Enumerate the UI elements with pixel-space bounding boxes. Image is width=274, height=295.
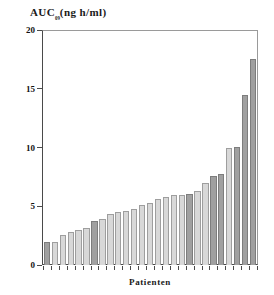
x-axis-tick-mark [43, 266, 44, 270]
bar [44, 242, 50, 265]
bar [139, 205, 145, 265]
x-axis-tick-mark [241, 266, 242, 270]
y-axis-tick-mark [37, 265, 42, 266]
x-axis-tick-mark [138, 266, 139, 270]
bar [115, 212, 121, 265]
y-axis-tick-mark [37, 147, 42, 148]
y-axis-tick-label: 5 [31, 200, 36, 212]
bar-chart: AUC₀₉(ng h/ml) 05101520 Patienten [0, 0, 274, 295]
bar [186, 194, 192, 265]
y-axis-tick-label: 0 [31, 259, 36, 271]
x-axis-tick-mark [170, 266, 171, 270]
x-axis-tick-mark [217, 266, 218, 270]
x-axis-tick-mark [186, 266, 187, 270]
x-axis-label: Patienten [42, 277, 258, 287]
bar [147, 203, 153, 265]
bar [210, 176, 216, 265]
y-axis-tick-mark [37, 206, 42, 207]
x-axis-tick-mark [154, 266, 155, 270]
bar [163, 197, 169, 265]
bar [155, 199, 161, 265]
bar [91, 221, 97, 265]
bar [107, 214, 113, 265]
chart-title-unit: (ng h/ml) [60, 6, 107, 18]
y-axis: 05101520 [0, 24, 42, 271]
x-axis-tick-mark [178, 266, 179, 270]
bar [123, 211, 129, 265]
bar [179, 195, 185, 265]
x-axis-tick-mark [130, 266, 131, 270]
bar [234, 147, 240, 265]
bar [52, 242, 58, 265]
bar [250, 59, 256, 265]
x-axis-tick-mark [194, 266, 195, 270]
bar [83, 228, 89, 265]
y-axis-tick-label: 20 [26, 24, 35, 36]
x-axis-tick-mark [122, 266, 123, 270]
bar [68, 232, 74, 265]
bar [218, 174, 224, 265]
x-axis-tick-mark [162, 266, 163, 270]
x-axis-tick-mark [98, 266, 99, 270]
bar [131, 209, 137, 265]
bar [226, 148, 232, 265]
x-axis-tick-mark [91, 266, 92, 270]
x-axis-tick-mark [106, 266, 107, 270]
x-axis-tick-mark [225, 266, 226, 270]
x-axis-tick-mark [75, 266, 76, 270]
x-axis-tick-mark [67, 266, 68, 270]
bars-container [43, 31, 257, 265]
bar [202, 183, 208, 265]
x-axis-tick-mark [83, 266, 84, 270]
chart-title: AUC₀₉(ng h/ml) [30, 6, 107, 20]
x-axis-tick-mark [233, 266, 234, 270]
bar [171, 195, 177, 265]
x-axis-tick-mark [249, 266, 250, 270]
y-axis-tick-label: 15 [26, 83, 35, 95]
x-axis-tick-mark [209, 266, 210, 270]
bar [99, 219, 105, 265]
bar [60, 235, 66, 265]
x-axis-tick-mark [59, 266, 60, 270]
y-axis-tick-mark [37, 30, 42, 31]
bar [194, 191, 200, 265]
x-axis-tick-mark [146, 266, 147, 270]
y-axis-tick-label: 10 [26, 142, 35, 154]
x-axis-tick-mark [257, 266, 258, 270]
x-axis-tick-mark [202, 266, 203, 270]
x-axis-ticks [43, 266, 257, 271]
bar [242, 95, 248, 265]
bar [75, 230, 81, 265]
x-axis-tick-mark [114, 266, 115, 270]
y-axis-tick-mark [37, 88, 42, 89]
x-axis-tick-mark [51, 266, 52, 270]
chart-title-main: AUC [30, 6, 55, 18]
